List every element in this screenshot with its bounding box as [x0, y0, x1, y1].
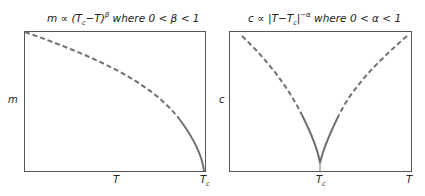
- magnetization-curve: [0, 0, 212, 196]
- panel-magnetization: m ∝ (Tc−T)β where 0 < β < 1 m T Tc: [0, 0, 212, 196]
- panel-heat-capacity: c ∝ |T−Tc|−α where 0 < α < 1 c Tc T: [212, 0, 425, 196]
- heat-capacity-curve: [212, 0, 425, 196]
